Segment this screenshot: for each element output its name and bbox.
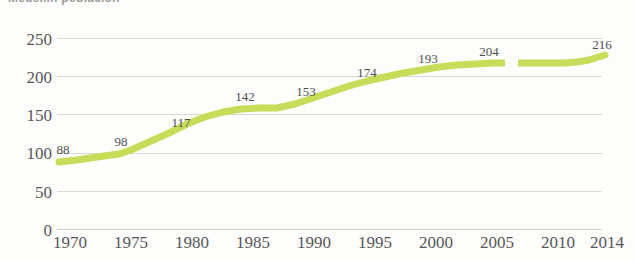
data-label-1985: 142 [235, 90, 255, 103]
y-tick-100: 100 [4, 145, 52, 162]
x-tick-1975: 1975 [114, 234, 148, 251]
data-label-2005: 204 [479, 45, 499, 58]
data-label-1990: 153 [296, 85, 316, 98]
y-axis: 250 200 150 100 50 0 [0, 0, 52, 261]
y-tick-200: 200 [4, 69, 52, 86]
data-label-1995: 174 [357, 66, 377, 79]
series-polyline [59, 55, 605, 162]
y-tick-150: 150 [4, 107, 52, 124]
gridline-0 [57, 229, 602, 230]
x-tick-1985: 1985 [236, 234, 270, 251]
series-line-poblacion [57, 38, 602, 229]
x-tick-1995: 1995 [358, 234, 392, 251]
x-tick-1980: 1980 [175, 234, 209, 251]
x-axis: 1970 1975 1980 1985 1990 1995 2000 2005 … [0, 234, 635, 261]
y-tick-50: 50 [4, 184, 52, 201]
line-chart: Medellín población 88 98 117 142 153 174… [0, 0, 635, 261]
data-label-2014: 216 [592, 38, 612, 51]
data-label-2000: 193 [418, 52, 438, 65]
x-tick-2000: 2000 [419, 234, 453, 251]
data-label-1980: 117 [171, 116, 190, 129]
x-tick-1970: 1970 [53, 234, 87, 251]
x-tick-1990: 1990 [297, 234, 331, 251]
x-tick-2005: 2005 [480, 234, 514, 251]
data-label-1970: 88 [57, 143, 70, 156]
scan-gap-artifact [505, 52, 518, 74]
y-tick-250: 250 [4, 31, 52, 48]
plot-area: 88 98 117 142 153 174 193 204 216 [57, 38, 602, 229]
data-label-1975: 98 [115, 135, 128, 148]
x-tick-2010: 2010 [541, 234, 575, 251]
x-tick-2014: 2014 [590, 234, 624, 251]
